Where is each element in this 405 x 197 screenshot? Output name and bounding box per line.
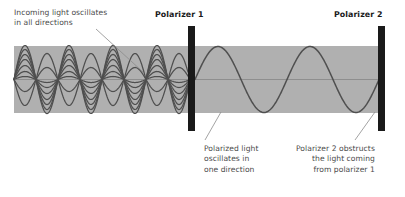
polarizer-2-label: Polarizer 2: [334, 10, 382, 20]
polarizer-1-label: Polarizer 1: [155, 10, 203, 20]
polarizer-1-bar: [188, 26, 195, 131]
annotation-polarizer-2-obstructs: Polarizer 2 obstructs the light coming f…: [296, 144, 375, 175]
polarizer-2-bar: [378, 26, 385, 131]
annotation-polarized-light: Polarized light oscillates in one direct…: [204, 144, 258, 175]
leader-line-obstructs: [355, 112, 375, 140]
leader-line-polarized: [205, 112, 221, 140]
annotation-incoming-light: Incoming light oscillates in all directi…: [14, 8, 107, 29]
polarization-diagram: Incoming light oscillates in all directi…: [0, 0, 405, 197]
